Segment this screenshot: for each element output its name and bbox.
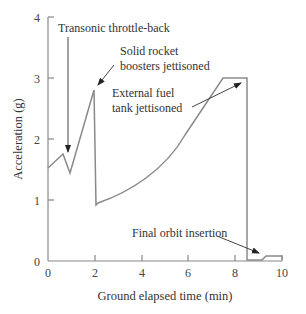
annotation-final-orbit: Final orbit insertion	[132, 226, 259, 253]
y-tick-label: 2	[34, 133, 40, 147]
x-tick-label: 0	[45, 266, 51, 280]
x-tick-label: 8	[232, 266, 238, 280]
y-axis-title: Acceleration (g)	[11, 98, 25, 180]
x-axis-title: Ground elapsed time (min)	[97, 289, 232, 303]
x-tick-label: 6	[185, 266, 191, 280]
y-tick-label: 1	[34, 194, 40, 208]
annotation-label: Final orbit insertion	[132, 226, 227, 240]
x-tick-label: 2	[92, 266, 98, 280]
x-tick-label: 4	[139, 266, 145, 280]
annotation-label: Solid rocket	[120, 44, 179, 58]
x-tick-labels: 0 2 4 6 8 10	[45, 266, 288, 280]
x-tick-label: 10	[276, 266, 288, 280]
y-tick-label: 3	[34, 72, 40, 86]
y-tick-labels: 4 3 2 1 0	[34, 11, 40, 269]
y-tick-label: 4	[34, 11, 40, 25]
annotation-label: External fuel	[112, 86, 175, 100]
annotation-label: tank jettisoned	[112, 101, 182, 115]
y-tick-label: 0	[34, 255, 40, 269]
chart: 4 3 2 1 0 0 2 4 6 8 10 Ground elapsed ti…	[0, 0, 306, 314]
annotation-external-tank: External fuel tank jettisoned	[112, 83, 241, 115]
annotation-label: Transonic throttle-back	[58, 21, 170, 35]
annotation-label: boosters jettisoned	[120, 59, 210, 73]
annotation-srb: Solid rocket boosters jettisoned	[98, 44, 210, 85]
